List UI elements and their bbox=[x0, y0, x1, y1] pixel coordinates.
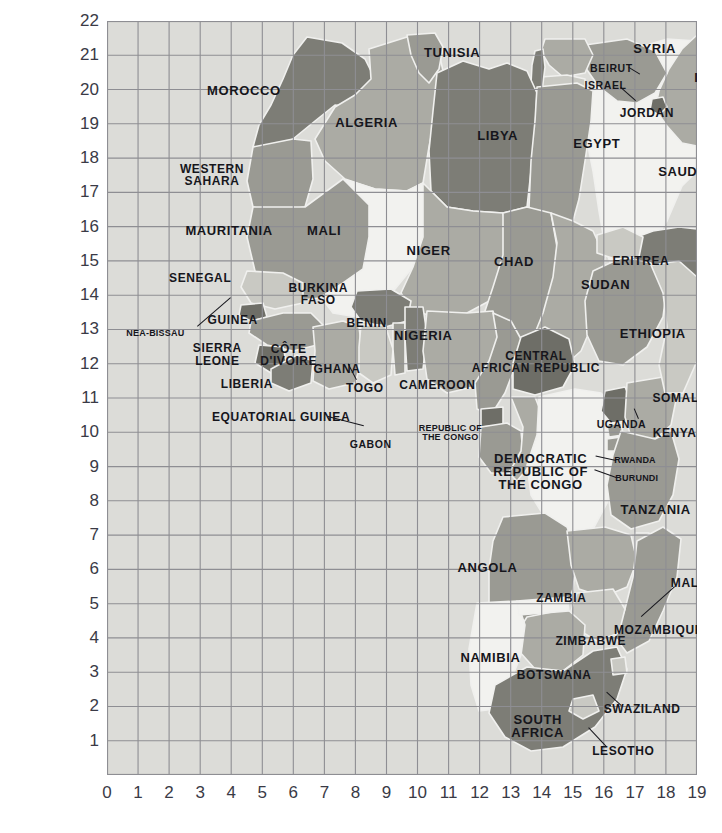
shape-zambia bbox=[567, 527, 637, 597]
x-tick-7: 7 bbox=[309, 783, 339, 803]
y-tick-20: 20 bbox=[59, 80, 99, 100]
map-label-niger: NIGER bbox=[406, 244, 450, 257]
y-tick-8: 8 bbox=[59, 491, 99, 511]
map-label-beirut: BEIRUT bbox=[590, 62, 633, 73]
map-label-israel: ISRAEL bbox=[584, 80, 626, 91]
y-tick-16: 16 bbox=[59, 217, 99, 237]
y-tick-2: 2 bbox=[59, 696, 99, 716]
y-tick-15: 15 bbox=[59, 251, 99, 271]
map-label-tunisia: TUNISIA bbox=[424, 46, 480, 59]
shape-western-sahara bbox=[247, 139, 313, 211]
x-tick-10: 10 bbox=[403, 783, 433, 803]
y-tick-6: 6 bbox=[59, 559, 99, 579]
map-label-sierra-leone: SIERRALEONE bbox=[193, 342, 242, 366]
map-label-guinea-bissau: NEA-BISSAU bbox=[126, 329, 184, 338]
map-label-sudan: SUDAN bbox=[581, 278, 630, 291]
map-label-zambia: ZAMBIA bbox=[536, 592, 586, 604]
map-label-ethiopia: ETHIOPIA bbox=[620, 327, 686, 340]
y-tick-19: 19 bbox=[59, 114, 99, 134]
y-tick-13: 13 bbox=[59, 319, 99, 339]
map-label-burkina-faso: BURKINAFASO bbox=[288, 282, 348, 306]
y-tick-12: 12 bbox=[59, 354, 99, 374]
x-tick-12: 12 bbox=[465, 783, 495, 803]
x-tick-4: 4 bbox=[216, 783, 246, 803]
map-label-angola: ANGOLA bbox=[458, 561, 518, 574]
y-tick-17: 17 bbox=[59, 182, 99, 202]
map-label-cote-divoire: CÔTED'IVOIRE bbox=[260, 343, 317, 367]
y-tick-1: 1 bbox=[59, 731, 99, 751]
map-label-eritrea: ERITREA bbox=[613, 255, 670, 267]
y-tick-9: 9 bbox=[59, 457, 99, 477]
map-label-egypt: EGYPT bbox=[573, 137, 620, 150]
x-tick-17: 17 bbox=[620, 783, 650, 803]
x-tick-6: 6 bbox=[278, 783, 308, 803]
map-label-benin: BENIN bbox=[346, 316, 386, 328]
y-tick-3: 3 bbox=[59, 662, 99, 682]
map-label-namibia: NAMIBIA bbox=[461, 652, 521, 665]
x-tick-19: 19 bbox=[682, 783, 712, 803]
map-label-swaziland: SWAZILAND bbox=[604, 703, 681, 715]
map-label-cameroon: CAMEROON bbox=[399, 379, 475, 391]
y-tick-11: 11 bbox=[59, 388, 99, 408]
map-label-botswana: BOTSWANA bbox=[517, 669, 592, 681]
map-label-nigeria: NIGERIA bbox=[394, 330, 452, 343]
y-tick-10: 10 bbox=[59, 422, 99, 442]
x-tick-9: 9 bbox=[371, 783, 401, 803]
map-label-democratic-republic-of-the-congo: DEMOCRATICREPUBLIC OFTHE CONGO bbox=[493, 452, 588, 492]
map-label-rwanda: RWANDA bbox=[614, 457, 656, 466]
map-label-gabon: GABON bbox=[350, 439, 392, 450]
x-tick-16: 16 bbox=[589, 783, 619, 803]
x-tick-3: 3 bbox=[185, 783, 215, 803]
y-tick-5: 5 bbox=[59, 594, 99, 614]
y-tick-4: 4 bbox=[59, 628, 99, 648]
map-label-togo: TOGO bbox=[346, 382, 384, 394]
map-label-jordan: JORDAN bbox=[620, 107, 674, 119]
y-tick-14: 14 bbox=[59, 285, 99, 305]
map-label-tanzania: TANZANIA bbox=[621, 503, 691, 516]
x-tick-0: 0 bbox=[92, 783, 122, 803]
map-label-burundi: BURUNDI bbox=[615, 475, 658, 484]
x-tick-1: 1 bbox=[123, 783, 153, 803]
x-tick-5: 5 bbox=[247, 783, 277, 803]
map-label-mali: MALI bbox=[307, 224, 341, 237]
map-label-iraq: IRAQ bbox=[694, 71, 697, 84]
x-tick-8: 8 bbox=[340, 783, 370, 803]
map-label-uganda: UGANDA bbox=[597, 419, 647, 430]
map-label-guinea: GUINEA bbox=[208, 313, 258, 325]
map-label-western-sahara: WESTERNSAHARA bbox=[180, 163, 244, 187]
map-label-senegal: SENEGAL bbox=[169, 272, 231, 284]
x-tick-11: 11 bbox=[434, 783, 464, 803]
map-label-central-african-republic: CENTRALAFRICAN REPUBLIC bbox=[472, 350, 600, 374]
x-tick-13: 13 bbox=[496, 783, 526, 803]
map-label-lesotho: LESOTHO bbox=[592, 745, 654, 757]
map-label-mauritania: MAURITANIA bbox=[185, 224, 272, 237]
map-label-somalia: SOMALIA bbox=[652, 392, 697, 404]
map-label-kenya: KENYA bbox=[653, 427, 697, 439]
africa-map-graphic: .ln{fill:none;stroke:#8e8e93;stroke-widt… bbox=[107, 21, 697, 775]
map-figure: .ln{fill:none;stroke:#8e8e93;stroke-widt… bbox=[0, 0, 722, 833]
y-tick-21: 21 bbox=[59, 45, 99, 65]
x-tick-15: 15 bbox=[558, 783, 588, 803]
x-tick-18: 18 bbox=[651, 783, 681, 803]
map-label-syria: SYRIA bbox=[633, 42, 676, 55]
y-tick-18: 18 bbox=[59, 148, 99, 168]
x-tick-14: 14 bbox=[527, 783, 557, 803]
map-label-saudi-arabia: SAUDI ARABIA bbox=[658, 165, 697, 178]
map-label-south-africa: SOUTHAFRICA bbox=[511, 713, 564, 740]
map-label-libya: LIBYA bbox=[477, 129, 518, 142]
y-tick-7: 7 bbox=[59, 525, 99, 545]
map-label-algeria: ALGERIA bbox=[335, 116, 398, 129]
map-label-morocco: MOROCCO bbox=[207, 84, 281, 97]
y-tick-22: 22 bbox=[59, 11, 99, 31]
map-label-mozambique: MOZAMBIQUE bbox=[614, 624, 697, 636]
map-label-liberia: LIBERIA bbox=[221, 378, 273, 390]
shape-ghana bbox=[359, 325, 393, 383]
x-tick-2: 2 bbox=[154, 783, 184, 803]
map-label-republic-of-the-congo: REPUBLIC OFTHE CONGO bbox=[419, 424, 482, 442]
map-plot-area: .ln{fill:none;stroke:#8e8e93;stroke-widt… bbox=[107, 21, 697, 775]
map-label-chad: CHAD bbox=[494, 256, 534, 269]
map-label-zimbabwe: ZIMBABWE bbox=[555, 635, 626, 647]
